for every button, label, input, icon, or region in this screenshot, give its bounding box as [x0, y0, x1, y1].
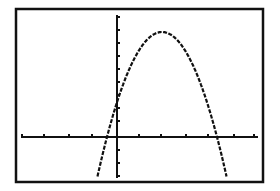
graph-screen — [0, 0, 280, 191]
function-graph — [0, 0, 280, 191]
screen-frame — [16, 9, 263, 182]
x-axis — [21, 134, 258, 137]
